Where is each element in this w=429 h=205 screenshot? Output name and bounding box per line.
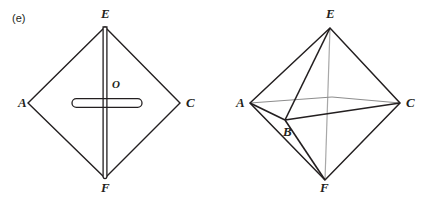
edge-D-C-hidden <box>332 97 400 103</box>
left-vertex-label-F: F <box>101 180 110 196</box>
right-vertex-label-B: B <box>283 124 292 140</box>
edge-B-E <box>285 28 330 120</box>
octahedron-silhouette <box>250 28 400 180</box>
left-vertex-label-C: C <box>186 95 195 111</box>
edge-E-F-hidden <box>325 28 330 180</box>
right-vertex-label-E: E <box>326 6 335 22</box>
right-vertex-label-F: F <box>320 180 329 196</box>
edge-A-B <box>250 103 285 120</box>
right-vertex-label-A: A <box>236 95 245 111</box>
left-vertex-label-O: O <box>112 78 120 90</box>
edge-B-C <box>285 103 400 120</box>
geometry-figure-canvas <box>0 0 429 205</box>
left-vertex-label-A: A <box>18 95 27 111</box>
right-diagram-octahedron <box>250 28 400 180</box>
left-diagram-rhombus <box>28 27 180 179</box>
edge-A-D-hidden <box>250 97 332 103</box>
right-vertex-label-C: C <box>406 95 415 111</box>
left-vertex-label-E: E <box>101 6 110 22</box>
figure-page: (e) <box>0 0 429 205</box>
